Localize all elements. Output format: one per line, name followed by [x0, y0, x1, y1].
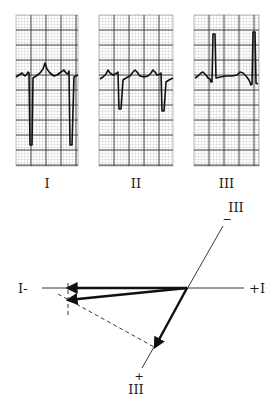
ecg-strips: IIIIII: [16, 15, 259, 191]
vector-diagram: I-+IIII−+III: [18, 200, 265, 397]
mean-axis-vector: [68, 288, 187, 300]
lead-label: III: [219, 176, 234, 191]
figure-canvas: IIIIII I-+IIII−+III: [0, 0, 280, 405]
lead-label: II: [131, 176, 141, 191]
ecg-strip-lead-II: II: [99, 15, 173, 191]
ecg-axis-figure: IIIIII I-+IIII−+III: [0, 0, 280, 405]
lead-III-bottom-label: III: [128, 382, 143, 397]
lead-label: I: [44, 176, 49, 191]
ecg-strip-lead-III: III: [194, 15, 259, 191]
lead-I-positive-label: +I: [249, 281, 265, 296]
lead-III-perpendicular: [58, 294, 156, 348]
ecg-grid: [194, 15, 259, 166]
lead-I-negative-label: I-: [18, 281, 28, 296]
ecg-strip-lead-I: I: [16, 15, 78, 191]
lead-III-vector: [155, 288, 187, 347]
lead-III-negative-sign: −: [222, 213, 231, 226]
